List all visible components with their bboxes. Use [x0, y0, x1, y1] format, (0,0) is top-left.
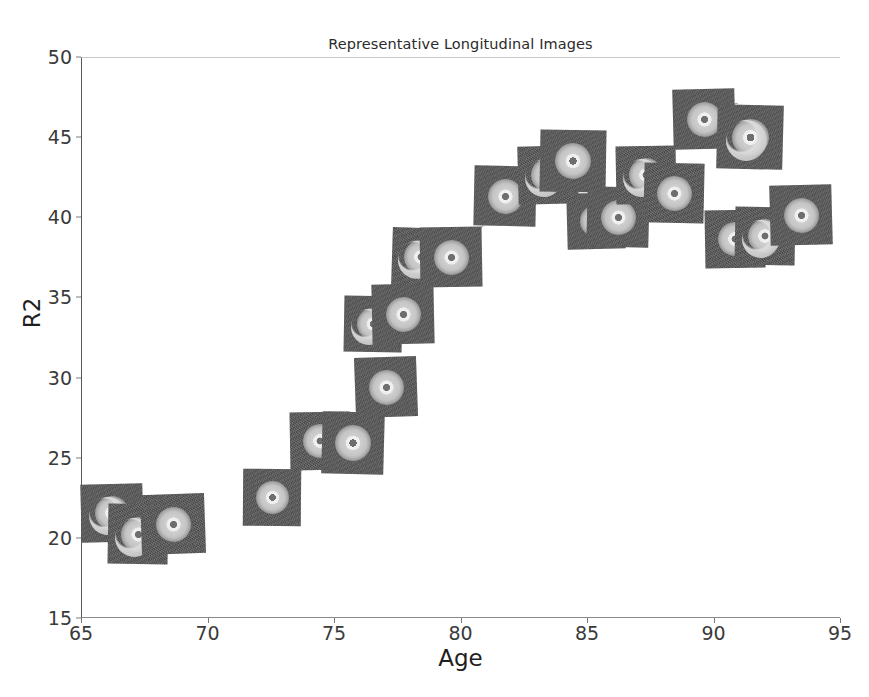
scan-thumbnail[interactable]	[539, 129, 606, 192]
scan-disc	[555, 142, 592, 179]
scan-disc	[334, 424, 371, 461]
y-tick-mark-30	[76, 377, 81, 378]
scan-thumbnail[interactable]	[140, 493, 206, 555]
x-tick-mark-85	[587, 618, 588, 623]
scan-thumbnail[interactable]	[643, 162, 704, 223]
scan-thumbnail[interactable]	[372, 284, 435, 345]
chart-title: Representative Longitudinal Images	[81, 36, 840, 52]
y-tick-mark-35	[76, 297, 81, 298]
y-tick-mark-15	[76, 618, 81, 619]
y-tick-label-30: 30	[48, 367, 72, 389]
figure-canvas: Representative Longitudinal Images 15202…	[0, 0, 869, 697]
y-tick-label-40: 40	[48, 206, 72, 228]
x-tick-mark-70	[208, 618, 209, 623]
x-tick-mark-95	[840, 618, 841, 623]
data-layer	[82, 58, 840, 617]
scan-disc	[783, 198, 819, 234]
x-tick-label-90: 90	[701, 622, 725, 644]
x-tick-label-65: 65	[69, 622, 93, 644]
scan-thumbnail[interactable]	[321, 411, 385, 475]
y-tick-mark-25	[76, 457, 81, 458]
y-axis-label: R2	[19, 253, 45, 373]
x-tick-label-70: 70	[195, 622, 219, 644]
scan-disc	[368, 369, 404, 405]
scan-disc	[657, 175, 693, 211]
x-tick-mark-90	[714, 618, 715, 623]
y-tick-mark-50	[76, 57, 81, 58]
x-tick-mark-65	[81, 618, 82, 623]
scan-thumbnail[interactable]	[769, 184, 833, 246]
x-tick-label-80: 80	[448, 622, 472, 644]
x-tick-label-85: 85	[575, 622, 599, 644]
scan-crescent	[725, 119, 767, 161]
scan-disc	[256, 481, 289, 514]
scan-thumbnail[interactable]	[354, 356, 418, 418]
y-tick-mark-20	[76, 537, 81, 538]
y-tick-label-25: 25	[48, 447, 72, 469]
x-tick-label-95: 95	[828, 622, 852, 644]
y-tick-mark-40	[76, 217, 81, 218]
scan-thumbnail[interactable]	[243, 468, 301, 526]
scan-thumbnail[interactable]	[420, 226, 483, 287]
y-tick-label-35: 35	[48, 286, 72, 308]
x-tick-label-75: 75	[322, 622, 346, 644]
y-tick-label-50: 50	[48, 46, 72, 68]
x-axis-label: Age	[81, 645, 840, 671]
x-tick-mark-80	[461, 618, 462, 623]
y-tick-label-20: 20	[48, 527, 72, 549]
y-tick-label-45: 45	[48, 126, 72, 148]
y-tick-mark-45	[76, 137, 81, 138]
x-tick-mark-75	[334, 618, 335, 623]
scan-thumbnail[interactable]	[716, 104, 784, 170]
plot-area	[81, 57, 840, 618]
